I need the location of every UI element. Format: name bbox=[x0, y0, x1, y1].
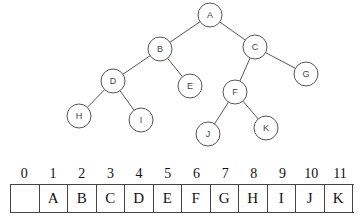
svg-text:E: E bbox=[187, 81, 193, 91]
svg-text:G: G bbox=[302, 69, 309, 79]
tree-node-A: A bbox=[198, 3, 222, 27]
tree-edge-D-H bbox=[87, 90, 104, 108]
tree-edge-A-C bbox=[220, 22, 245, 40]
tree-node-C: C bbox=[243, 35, 267, 59]
tree-node-D: D bbox=[101, 69, 125, 93]
tree-edge-F-J bbox=[214, 102, 228, 124]
array-cell: J bbox=[296, 185, 325, 212]
svg-text:A: A bbox=[207, 10, 213, 20]
array-cell: D bbox=[125, 185, 154, 212]
array-index-label: 7 bbox=[211, 165, 240, 183]
array-cell: G bbox=[211, 185, 240, 212]
array-index-label: 10 bbox=[297, 165, 326, 183]
array-index-label: 0 bbox=[10, 165, 39, 183]
array-index-label: 5 bbox=[153, 165, 182, 183]
tree-node-E: E bbox=[178, 74, 202, 98]
array-representation: 01234567891011 ABCDEFGHIJK bbox=[10, 165, 354, 213]
array-cell: A bbox=[40, 185, 69, 212]
tree-node-F: F bbox=[223, 80, 247, 104]
svg-text:J: J bbox=[206, 129, 211, 139]
array-cell: H bbox=[239, 185, 268, 212]
svg-text:I: I bbox=[140, 115, 143, 125]
tree-edge-C-F bbox=[240, 58, 250, 81]
array-index-label: 1 bbox=[39, 165, 68, 183]
array-index-label: 4 bbox=[125, 165, 154, 183]
svg-text:D: D bbox=[110, 76, 117, 86]
tree-edge-F-K bbox=[243, 101, 258, 119]
array-cell: I bbox=[268, 185, 297, 212]
svg-text:B: B bbox=[157, 44, 163, 54]
svg-text:H: H bbox=[76, 111, 83, 121]
array-cell: B bbox=[68, 185, 97, 212]
array-cell: F bbox=[182, 185, 211, 212]
array-cell bbox=[11, 185, 40, 212]
tree-edge-C-G bbox=[266, 53, 296, 69]
array-index-label: 2 bbox=[67, 165, 96, 183]
tree-node-I: I bbox=[129, 108, 153, 132]
array-cell: C bbox=[97, 185, 126, 212]
tree-edge-B-D bbox=[123, 56, 150, 74]
array-cell: K bbox=[325, 185, 354, 212]
array-cell: E bbox=[154, 185, 183, 212]
tree-node-H: H bbox=[67, 104, 91, 128]
svg-text:C: C bbox=[252, 42, 259, 52]
svg-text:F: F bbox=[232, 87, 238, 97]
array-cell-row: ABCDEFGHIJK bbox=[10, 184, 354, 213]
array-index-label: 11 bbox=[326, 165, 355, 183]
tree-node-J: J bbox=[196, 122, 220, 146]
tree-edge-B-E bbox=[168, 58, 183, 76]
svg-text:K: K bbox=[263, 123, 269, 133]
array-index-label: 3 bbox=[96, 165, 125, 183]
tree-node-G: G bbox=[294, 62, 318, 86]
tree-edge-A-B bbox=[170, 22, 200, 43]
array-index-label: 6 bbox=[182, 165, 211, 183]
tree-node-K: K bbox=[254, 116, 278, 140]
array-index-row: 01234567891011 bbox=[10, 165, 354, 183]
binary-tree-diagram: ABCDEFGHIJK bbox=[0, 0, 360, 160]
array-index-label: 8 bbox=[240, 165, 269, 183]
array-index-label: 9 bbox=[268, 165, 297, 183]
tree-node-B: B bbox=[148, 37, 172, 61]
tree-edge-D-I bbox=[120, 91, 134, 111]
